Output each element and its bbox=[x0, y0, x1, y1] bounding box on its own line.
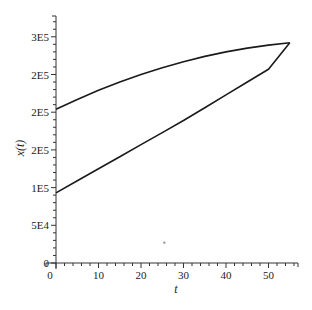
y-axis-title: x(t) bbox=[13, 140, 27, 158]
x-tick-label: 10 bbox=[93, 269, 105, 281]
annotations bbox=[163, 242, 165, 244]
x-tick-label: 30 bbox=[178, 269, 190, 281]
y-tick-label: 2E5 bbox=[31, 106, 49, 118]
y-tick-label: 2E5 bbox=[31, 144, 49, 156]
y-tick-label: 2E5 bbox=[31, 69, 49, 81]
x-tick-label: 50 bbox=[263, 269, 275, 281]
plot-series bbox=[56, 43, 290, 193]
x-tick-label: 40 bbox=[221, 269, 233, 281]
y-axis: 05E41E52E52E52E53E5 bbox=[31, 16, 56, 269]
x-tick-label: 20 bbox=[136, 269, 148, 281]
line-chart: 05E41E52E52E52E53E5 01020304050 t x(t) bbox=[0, 0, 312, 310]
series-line-upper bbox=[56, 43, 290, 109]
x-tick-label: 0 bbox=[47, 269, 53, 281]
y-tick-label: 5E4 bbox=[31, 219, 49, 231]
x-axis-title: t bbox=[174, 282, 178, 296]
marker-dot bbox=[163, 242, 165, 244]
x-axis: 01020304050 bbox=[46, 263, 298, 281]
y-tick-label: 3E5 bbox=[31, 31, 49, 43]
y-tick-label: 1E5 bbox=[31, 182, 49, 194]
